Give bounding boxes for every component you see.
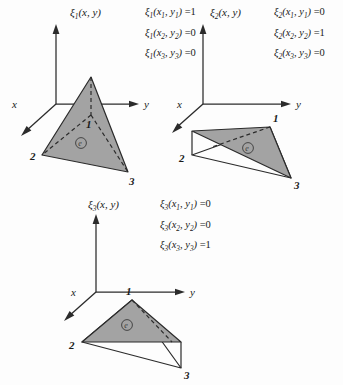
y-axis-arrowhead xyxy=(281,101,291,107)
vertical-axis-arrowhead xyxy=(53,24,60,34)
x-axis-label: x xyxy=(176,98,182,110)
x-axis-label: x xyxy=(70,286,76,298)
y-axis-label: y xyxy=(295,98,301,110)
x-axis-label: x xyxy=(11,98,17,110)
panel-2-diagram: y x 1 2 3 e xyxy=(172,0,343,193)
panel-xi2: ξ2(x, y) ξ2(x1, y1) =0 ξ2(x2, y2) =1 ξ2(… xyxy=(172,0,343,193)
element-label: e xyxy=(78,139,82,148)
node-label-1: 1 xyxy=(273,112,279,124)
vertical-axis-arrowhead xyxy=(93,214,100,224)
x-axis xyxy=(26,104,56,131)
node-label-1: 1 xyxy=(86,118,92,130)
y-axis-label: y xyxy=(189,286,195,298)
panel-xi3: ξ3(x, y) ξ3(x1, y1) =0 ξ3(x2, y2) =0 ξ3(… xyxy=(60,192,280,385)
element-label: e xyxy=(124,321,128,330)
panel-1-diagram: y x 1 2 3 e xyxy=(0,0,172,193)
shape-function-surface xyxy=(192,127,291,178)
y-axis-arrowhead xyxy=(175,289,185,295)
panel-xi1: ξ1(x, y) ξ1(x1, y1) =1 ξ1(x2, y2) =0 ξ1(… xyxy=(0,0,172,193)
shape-function-surface xyxy=(42,77,128,172)
node-label-3: 3 xyxy=(293,179,300,191)
node-label-3: 3 xyxy=(183,369,190,381)
node-label-1: 1 xyxy=(126,285,132,297)
node-label-2: 2 xyxy=(68,339,75,351)
element-label: e xyxy=(245,144,249,153)
node-label-2: 2 xyxy=(29,150,36,162)
y-axis-arrowhead xyxy=(129,101,139,107)
node-label-3: 3 xyxy=(128,175,135,187)
panel-3-diagram: y x 1 2 3 e xyxy=(60,192,280,385)
vertical-axis-arrowhead xyxy=(200,24,207,34)
node-label-2: 2 xyxy=(178,152,185,164)
y-axis-label: y xyxy=(143,98,149,110)
